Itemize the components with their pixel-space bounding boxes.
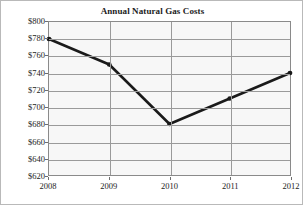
y-tick-label: $640 [3,154,45,163]
gridline-horizontal [49,125,290,126]
x-tick-mark [48,177,49,180]
y-tick-mark [45,142,48,143]
gridline-horizontal [49,160,290,161]
gridline-horizontal [49,91,290,92]
x-tick-mark [170,177,171,180]
y-tick-mark [45,124,48,125]
plot-area [48,21,291,176]
x-tick-mark [291,177,292,180]
gridline-vertical [110,22,111,175]
gridline-vertical [231,22,232,175]
x-tick-mark [109,177,110,180]
gridline-vertical [171,22,172,175]
y-tick-label: $760 [3,51,45,60]
data-point-markers [47,37,293,127]
y-tick-label: $700 [3,103,45,112]
gridline-horizontal [49,74,290,75]
y-tick-label: $800 [3,17,45,26]
y-tick-mark [45,159,48,160]
x-tick-label: 2009 [89,181,129,191]
y-tick-label: $740 [3,68,45,77]
gridline-horizontal [49,56,290,57]
chart-title: Annual Natural Gas Costs [1,6,303,16]
gridline-horizontal [49,143,290,144]
y-tick-label: $720 [3,85,45,94]
x-tick-label: 2011 [210,181,250,191]
y-tick-label: $680 [3,120,45,129]
data-series-line [49,22,290,175]
y-tick-mark [45,21,48,22]
y-axis: $800$780$760$740$720$700$680$660$640$620 [1,21,45,176]
chart-figure: Annual Natural Gas Costs $800$780$760$74… [0,0,303,205]
x-tick-label: 2012 [271,181,303,191]
y-tick-mark [45,55,48,56]
line-path [49,39,290,124]
x-tick-mark [230,177,231,180]
x-tick-label: 2010 [150,181,190,191]
y-tick-mark [45,107,48,108]
y-tick-mark [45,73,48,74]
y-tick-label: $660 [3,137,45,146]
y-tick-label: $620 [3,172,45,181]
y-tick-label: $780 [3,34,45,43]
x-tick-label: 2008 [28,181,68,191]
x-axis: 20082009201020112012 [48,181,291,195]
gridline-horizontal [49,39,290,40]
y-tick-mark [45,90,48,91]
gridline-horizontal [49,108,290,109]
y-tick-mark [45,38,48,39]
